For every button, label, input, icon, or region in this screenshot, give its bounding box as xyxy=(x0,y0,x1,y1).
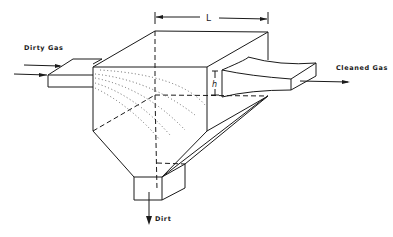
inflow-arrow-icon xyxy=(39,73,47,77)
hopper-right-side xyxy=(162,96,268,177)
inlet-duct: Dirty Gas xyxy=(14,44,102,87)
dirt-box: Dirt xyxy=(134,164,185,225)
settling-chamber-diagram: L Dirty Gas xyxy=(0,0,393,237)
dirt-out-arrow-icon xyxy=(146,216,152,225)
hopper xyxy=(93,131,207,177)
arrow-right-icon xyxy=(260,17,267,21)
inlet-label: Dirty Gas xyxy=(24,44,63,52)
inflow-arrow-icon xyxy=(55,64,62,68)
height-label: h xyxy=(212,80,217,89)
dirt-label: Dirt xyxy=(155,215,171,223)
outlet-label: Cleaned Gas xyxy=(336,64,388,72)
length-dimension: L xyxy=(155,12,268,24)
outlet-duct: Cleaned Gas h xyxy=(211,57,388,97)
arrow-left-icon xyxy=(156,15,163,19)
length-label: L xyxy=(206,13,211,23)
outflow-arrow-icon xyxy=(342,80,350,84)
particle-trajectories xyxy=(95,70,205,140)
